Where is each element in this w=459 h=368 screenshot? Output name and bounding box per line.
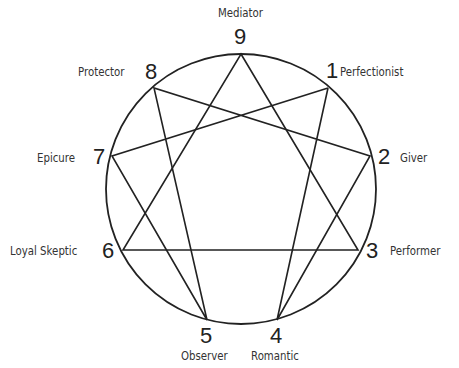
point-6-label: Loyal Skeptic [10,245,77,257]
point-9-number: 9 [234,26,246,48]
point-7-label: Epicure [37,152,75,164]
point-9-label: Mediator [218,7,263,19]
point-5-label: Observer [181,350,228,362]
point-4-number: 4 [270,325,282,347]
enneagram-diagram [0,0,459,368]
point-6-number: 6 [102,240,114,262]
point-8-label: Protector [78,66,124,78]
point-2-label: Giver [400,152,427,164]
point-7-number: 7 [93,146,105,168]
point-3-number: 3 [366,240,378,262]
point-1-label: Perfectionist [340,66,403,78]
point-8-number: 8 [145,61,157,83]
point-3-label: Performer [390,245,441,257]
enneagram-circle [106,54,376,324]
point-5-number: 5 [200,325,212,347]
point-2-number: 2 [378,146,390,168]
point-1-number: 1 [326,60,338,82]
point-4-label: Romantic [251,350,299,362]
